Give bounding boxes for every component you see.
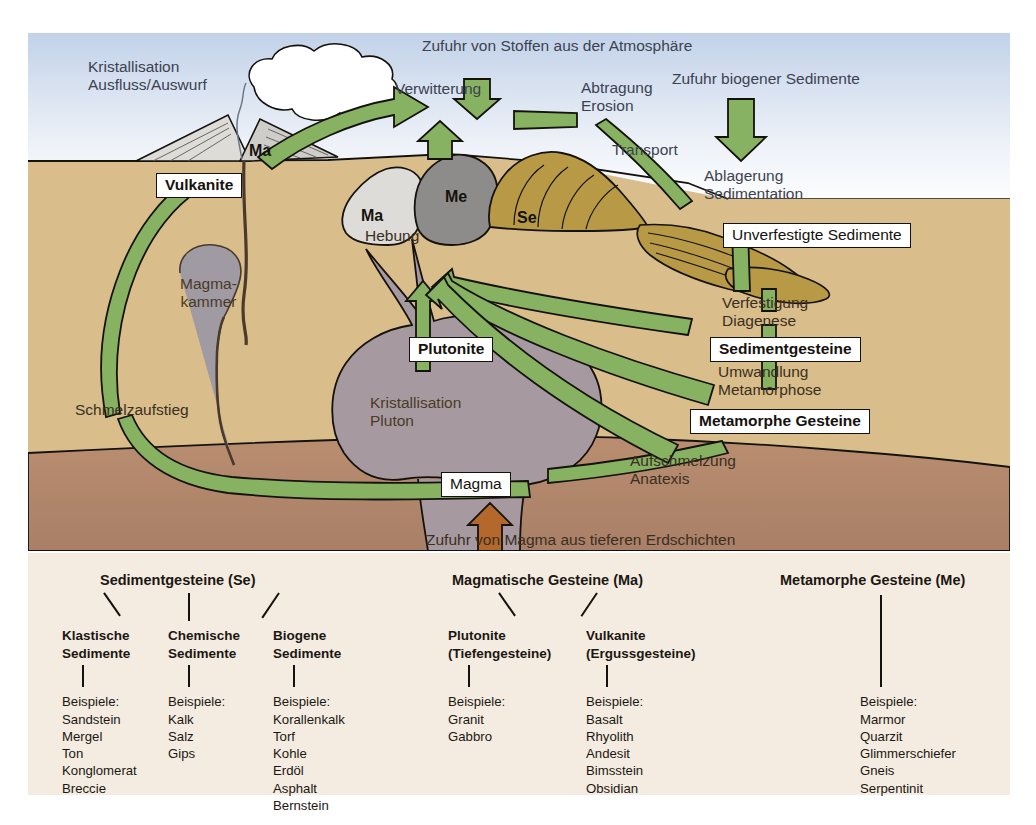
label-verfestigung-diagenese: Verfestigung Diagenese	[722, 294, 808, 330]
legend-examples-label: Beispiele:	[448, 693, 505, 710]
label-zufuhr-biogener: Zufuhr biogener Sedimente	[672, 70, 860, 88]
rock-cycle-diagram: Kristallisation Ausfluss/Auswurf Zufuhr …	[28, 33, 1010, 551]
legend-subgroup-biogene: Biogene Sedimente	[273, 627, 341, 662]
label-aufschmelzung-anatexis: Aufschmelzung Anatexis	[630, 452, 736, 488]
box-sedimentgesteine[interactable]: Sedimentgesteine	[710, 337, 861, 362]
legend-connector	[468, 665, 470, 687]
legend-examples-label: Beispiele:	[168, 693, 225, 710]
legend-examples-label: Beispiele:	[860, 693, 917, 710]
box-plutonite[interactable]: Plutonite	[409, 337, 493, 362]
legend-examples-label: Beispiele:	[62, 693, 119, 710]
legend-connector	[293, 665, 295, 687]
legend-subgroup-chemische: Chemische Sedimente	[168, 627, 240, 662]
legend-connector	[82, 665, 84, 687]
tag-ma-block: Ma	[361, 207, 383, 225]
arrow-abtragung-erosion	[514, 111, 577, 129]
box-unverfestigte-sedimente[interactable]: Unverfestigte Sedimente	[723, 223, 911, 248]
legend-examples-list: Granit Gabbro	[448, 711, 492, 745]
diagram-artwork	[28, 33, 1010, 551]
label-zufuhr-stoffe: Zufuhr von Stoffen aus der Atmosphäre	[422, 37, 692, 55]
legend-subgroup-klastische: Klastische Sedimente	[62, 627, 130, 662]
figure-root: Kristallisation Ausfluss/Auswurf Zufuhr …	[0, 0, 1036, 825]
rock-classification-legend: Sedimentgesteine (Se) Klastische Sedimen…	[28, 553, 1010, 795]
legend-examples-label: Beispiele:	[586, 693, 643, 710]
label-kristallisation-ausfluss: Kristallisation Ausfluss/Auswurf	[88, 58, 207, 94]
box-vulkanite[interactable]: Vulkanite	[156, 173, 242, 198]
box-metamorphe-gesteine[interactable]: Metamorphe Gesteine	[690, 409, 870, 434]
legend-examples-list: Kalk Salz Gips	[168, 711, 195, 762]
label-abtragung-erosion: Abtragung Erosion	[581, 79, 653, 115]
legend-connector	[103, 592, 121, 616]
label-transport: Transport	[612, 141, 678, 159]
legend-connector	[188, 593, 190, 621]
legend-connector	[606, 665, 608, 687]
legend-group-title-sediment: Sedimentgesteine (Se)	[100, 571, 256, 590]
label-umwandlung-metamorphose: Umwandlung Metamorphose	[718, 363, 821, 399]
legend-connector	[188, 665, 190, 687]
label-ablagerung-sedimentation: Ablagerung Sedimentation	[704, 167, 803, 203]
tag-ma-volcano: Ma	[249, 142, 271, 160]
legend-connector	[261, 592, 279, 618]
legend-examples-label: Beispiele:	[273, 693, 330, 710]
legend-connector	[580, 592, 597, 616]
legend-examples-list: Sandstein Mergel Ton Konglomerat Breccie	[62, 711, 137, 797]
label-schmelzaufstieg: Schmelzaufstieg	[75, 401, 189, 419]
label-zufuhr-magma: Zufuhr von Magma aus tieferen Erdschicht…	[426, 531, 735, 549]
legend-examples-list: Korallenkalk Torf Kohle Erdöl Asphalt Be…	[273, 711, 345, 814]
box-magma[interactable]: Magma	[441, 472, 511, 497]
legend-group-title-metamorph: Metamorphe Gesteine (Me)	[780, 571, 965, 590]
label-kristallisation-pluton: Kristallisation Pluton	[370, 394, 461, 430]
legend-examples-list: Basalt Rhyolith Andesit Bimsstein Obsidi…	[586, 711, 643, 797]
legend-subgroup-plutonite: Plutonite (Tiefengesteine)	[448, 627, 551, 662]
label-magmakammer: Magma- kammer	[180, 275, 237, 311]
legend-examples-list: Marmor Quarzit Glimmerschiefer Gneis Ser…	[860, 711, 956, 797]
legend-subgroup-vulkanite: Vulkanite (Ergussgesteine)	[586, 627, 696, 662]
legend-connector	[880, 595, 882, 687]
label-hebung: Hebung	[365, 227, 419, 245]
tag-me-block: Me	[445, 188, 467, 206]
tag-se-block: Se	[517, 209, 537, 227]
legend-group-title-magmatisch: Magmatische Gesteine (Ma)	[452, 571, 643, 590]
legend-connector	[498, 592, 516, 616]
label-verwitterung: Verwitterung	[395, 80, 481, 98]
